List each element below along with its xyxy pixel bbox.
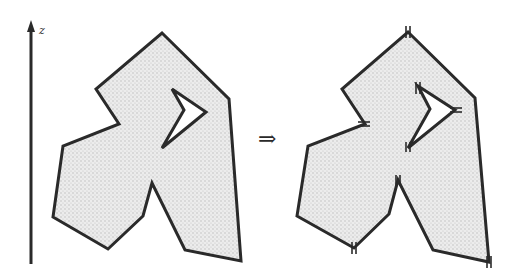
z-axis-label: z — [38, 24, 45, 37]
z-axis: z — [27, 20, 45, 264]
left-polygon — [53, 33, 241, 261]
implies-arrow-icon: ⇒ — [258, 126, 276, 151]
figure-canvas: z ⇒ — [0, 0, 516, 275]
z-axis-arrowhead-icon — [27, 20, 35, 32]
right-polygon-outer — [297, 32, 489, 262]
left-polygon-outer — [53, 33, 241, 261]
right-polygon — [297, 26, 491, 268]
